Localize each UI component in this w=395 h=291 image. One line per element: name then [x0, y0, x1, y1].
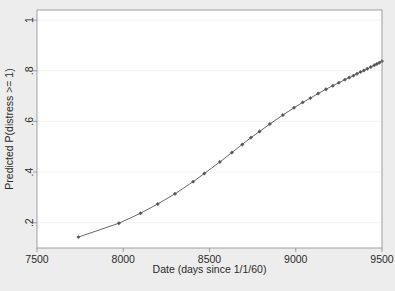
x-tick-label: 9500 [370, 253, 394, 265]
chart-canvas: 75008000850090009500 .2.4.6.81 Date (day… [0, 0, 395, 291]
x-tick-label: 8000 [112, 253, 136, 265]
x-tick-label: 7500 [25, 253, 49, 265]
y-tick-label: .6 [23, 117, 35, 126]
y-tick-label: .2 [23, 218, 35, 227]
y-tick-label: .4 [23, 168, 35, 177]
chart-figure: 75008000850090009500 .2.4.6.81 Date (day… [0, 0, 395, 291]
y-axis-title: Predicted P(distress >= 1) [3, 68, 15, 189]
plot-area-background [37, 10, 382, 248]
y-tick-label: 1 [23, 17, 35, 23]
x-tick-label: 9000 [284, 253, 308, 265]
y-tick-label: .8 [23, 66, 35, 75]
x-axis-title: Date (days since 1/1/60) [153, 263, 267, 275]
